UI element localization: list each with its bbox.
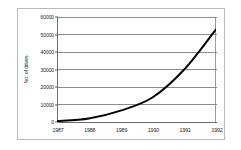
y-axis-tick-label: 0 bbox=[51, 120, 54, 125]
chart-figure: No. of drives 01000020000300004000050000… bbox=[0, 0, 241, 150]
gridline-30000 bbox=[58, 69, 217, 70]
y-axis-tick-label: 10000 bbox=[41, 102, 54, 107]
gridline-40000 bbox=[58, 52, 217, 53]
x-axis-tick-label: 1988 bbox=[84, 127, 95, 133]
x-axis-tick-label: 1989 bbox=[116, 127, 127, 133]
y-tick-mark-20000 bbox=[55, 87, 58, 88]
y-tick-mark-10000 bbox=[55, 104, 58, 105]
x-axis-tick-label: 1990 bbox=[148, 127, 159, 133]
y-tick-mark-60000 bbox=[55, 17, 58, 18]
gridline-60000 bbox=[58, 17, 217, 18]
y-axis-title: No. of drives bbox=[21, 17, 30, 122]
y-axis-tick-label: 20000 bbox=[41, 85, 54, 90]
gridline-20000 bbox=[58, 87, 217, 88]
x-axis-tick-label: 1992 bbox=[211, 127, 222, 133]
x-axis-tick-label: 1987 bbox=[52, 127, 63, 133]
y-tick-mark-30000 bbox=[55, 69, 58, 70]
gridline-0 bbox=[58, 122, 217, 123]
y-axis-tick-label: 40000 bbox=[41, 50, 54, 55]
y-axis-tick-label: 50000 bbox=[41, 32, 54, 37]
y-tick-mark-50000 bbox=[55, 34, 58, 35]
plot-area: 0100002000030000400005000060000198719881… bbox=[57, 17, 216, 122]
gridline-50000 bbox=[58, 34, 217, 35]
y-axis-tick-label: 60000 bbox=[41, 15, 54, 20]
y-tick-mark-40000 bbox=[55, 52, 58, 53]
y-axis-tick-label: 30000 bbox=[41, 67, 54, 72]
y-tick-mark-0 bbox=[55, 122, 58, 123]
gridline-10000 bbox=[58, 104, 217, 105]
x-axis-tick-label: 1991 bbox=[180, 127, 191, 133]
